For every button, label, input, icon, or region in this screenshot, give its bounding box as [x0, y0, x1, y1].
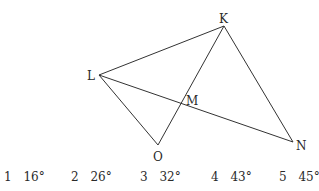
- segment-kn: [224, 26, 293, 142]
- option-number: 3: [140, 170, 148, 184]
- option-value: 32°: [159, 170, 180, 184]
- option-value: 45°: [298, 170, 319, 184]
- option-number: 1: [4, 170, 12, 184]
- point-label-o: O: [153, 150, 163, 164]
- option-1[interactable]: 1 16°: [4, 170, 45, 184]
- option-number: 5: [279, 170, 287, 184]
- point-label-m: M: [186, 94, 198, 108]
- option-3[interactable]: 3 32°: [140, 170, 181, 184]
- option-5[interactable]: 5 45°: [279, 170, 319, 184]
- option-value: 26°: [90, 170, 111, 184]
- segment-ok: [158, 26, 224, 145]
- option-number: 2: [71, 170, 79, 184]
- option-number: 4: [211, 170, 219, 184]
- option-value: 43°: [230, 170, 251, 184]
- segment-lk: [99, 26, 224, 75]
- option-2[interactable]: 2 26°: [71, 170, 112, 184]
- geometry-figure: K L M O N: [0, 0, 319, 191]
- point-label-n: N: [296, 139, 307, 153]
- point-label-l: L: [87, 69, 95, 83]
- segment-ln: [99, 75, 293, 142]
- point-label-k: K: [219, 12, 229, 26]
- option-4[interactable]: 4 43°: [211, 170, 252, 184]
- option-value: 16°: [23, 170, 44, 184]
